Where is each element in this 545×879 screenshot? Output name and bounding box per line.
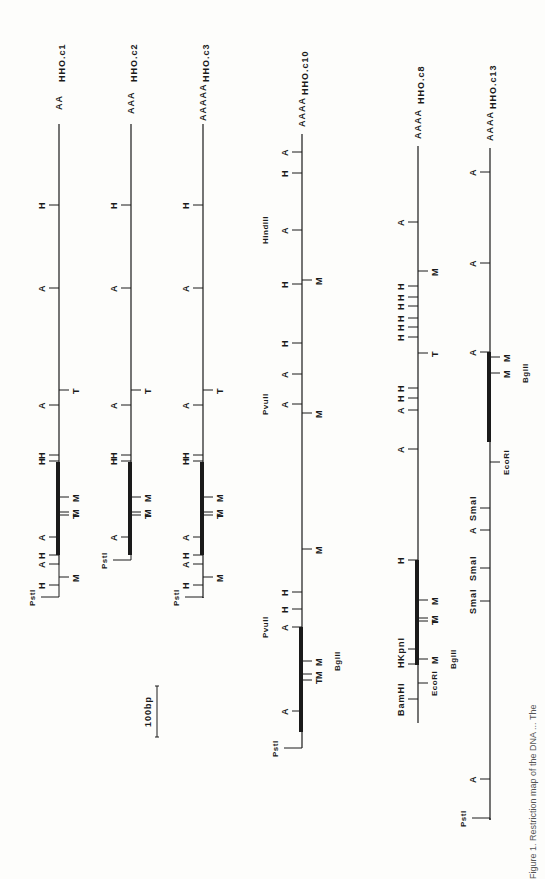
site-label: SmaI	[469, 588, 478, 614]
poly-a-label: AAAA	[414, 109, 423, 139]
site-label: M	[315, 545, 324, 554]
site-label: H	[110, 458, 119, 466]
site-label: A	[110, 402, 119, 410]
site-label: A	[469, 776, 478, 784]
clone-name-label: HHO.c13	[489, 64, 498, 109]
site-label: M	[216, 573, 225, 582]
site-label: H	[281, 340, 290, 348]
site-label: A	[182, 285, 191, 293]
site-label: T	[144, 512, 153, 519]
site-label: H	[281, 281, 290, 289]
coding-region-bar	[487, 352, 491, 442]
site-label: M	[72, 493, 81, 502]
site-label: A	[281, 227, 290, 235]
site-label: H	[182, 202, 191, 210]
site-label: T	[315, 677, 324, 684]
site-label: KpnI	[397, 637, 406, 661]
clone-name-label: HHO.c2	[130, 43, 139, 82]
site-label: A	[110, 285, 119, 293]
clone-name-label: HHO.c8	[417, 65, 426, 104]
site-label: BamHI	[397, 682, 406, 716]
pst-label: PstI	[29, 589, 37, 606]
caption-text: Figure 1. Restriction map of the DNA ...…	[528, 705, 538, 879]
site-label: H	[397, 324, 406, 332]
site-label: T	[72, 512, 81, 519]
coding-region-bar	[200, 462, 204, 555]
poly-a-label: AAA	[127, 91, 136, 114]
site-label: EcoRI	[503, 449, 511, 474]
pst-label: PstI	[101, 552, 109, 569]
site-label: H	[38, 552, 47, 560]
site-label: T	[216, 512, 225, 519]
site-label: M	[216, 493, 225, 502]
clone-name-label: HHO.c10	[301, 50, 310, 95]
site-label: M	[431, 596, 440, 605]
site-label: H	[397, 395, 406, 403]
coding-region-bar	[128, 462, 132, 555]
site-label: M	[315, 657, 324, 666]
site-label: H	[110, 202, 119, 210]
site-label: H	[397, 557, 406, 565]
site-label: H	[182, 582, 191, 590]
site-label: A	[182, 534, 191, 542]
site-label: H	[397, 303, 406, 311]
site-label: M	[72, 573, 81, 582]
site-label: H	[38, 202, 47, 210]
site-label: T	[431, 350, 440, 357]
enzyme-name-label: BglII	[334, 651, 342, 671]
site-label: A	[38, 402, 47, 410]
site-label: H	[38, 582, 47, 590]
site-label: H	[182, 552, 191, 560]
site-label: A	[38, 534, 47, 542]
site-label: A	[469, 260, 478, 268]
site-label: H	[38, 458, 47, 466]
site-label: H	[281, 589, 290, 597]
pst-label: PstI	[460, 810, 468, 827]
site-label: M	[431, 655, 440, 664]
enzyme-name-label: BglII	[450, 649, 458, 669]
pst-label: PstI	[173, 589, 181, 606]
figure-caption: Figure 1. Restriction map of the DNA ...…	[528, 705, 538, 879]
site-label: M	[431, 267, 440, 276]
site-label: H	[397, 315, 406, 323]
poly-a-label: AA	[55, 95, 64, 110]
site-label: SmaI	[469, 555, 478, 581]
site-label: A	[281, 708, 290, 716]
site-label: M	[315, 409, 324, 418]
site-label: A	[397, 219, 406, 227]
site-label: T	[216, 387, 225, 394]
enzyme-name-label: PvuII	[262, 393, 270, 415]
poly-a-label: AAAA	[298, 97, 307, 127]
clone-name-label: HHO.c1	[58, 43, 67, 82]
poly-a-label: AAAA	[486, 111, 495, 141]
site-label: M	[144, 493, 153, 502]
clone-name-label: HHO.c3	[202, 43, 211, 82]
enzyme-name-label: BglII	[522, 363, 530, 383]
site-label: EcoRI	[431, 670, 439, 695]
site-label: A	[38, 285, 47, 293]
poly-a-label: AAAAA	[199, 84, 208, 122]
site-label: A	[38, 561, 47, 569]
site-label: M	[315, 276, 324, 285]
site-label: A	[281, 624, 290, 632]
scale-bar-label: 100bp	[144, 696, 153, 727]
site-label: A	[397, 407, 406, 415]
site-label: H	[281, 170, 290, 178]
site-label: A	[469, 169, 478, 177]
site-label: T	[431, 618, 440, 625]
site-label: H	[281, 606, 290, 614]
site-label: H	[397, 283, 406, 291]
site-label: T	[72, 387, 81, 394]
site-label: A	[281, 401, 290, 409]
site-label: A	[110, 534, 119, 542]
site-label: H	[397, 334, 406, 342]
enzyme-name-label: PvuII	[262, 616, 270, 638]
site-label: A	[469, 349, 478, 357]
site-label: A	[469, 527, 478, 535]
site-label: H	[182, 458, 191, 466]
site-label: T	[144, 387, 153, 394]
site-label: A	[182, 402, 191, 410]
site-label: M	[503, 353, 512, 362]
site-label: H	[397, 661, 406, 669]
site-label: H	[397, 385, 406, 393]
